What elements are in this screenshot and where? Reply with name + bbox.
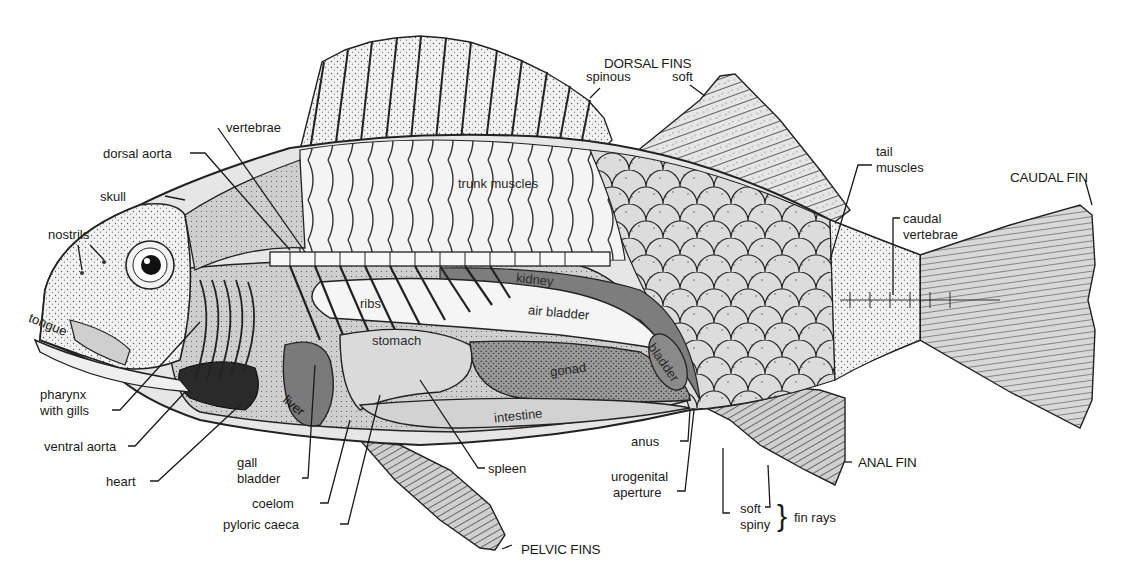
label-coelom: coelom — [252, 496, 294, 511]
fish-illustration — [0, 0, 1128, 580]
label-gall: gall — [237, 455, 257, 470]
label-ventral-aorta: ventral aorta — [44, 439, 116, 454]
eye — [126, 241, 174, 289]
pelvic-fin — [360, 440, 505, 550]
label-soft-dorsal: soft — [672, 69, 693, 84]
label-pyloric-caeca: pyloric caeca — [223, 517, 299, 532]
label-caudal: caudal — [903, 211, 941, 226]
label-gall-bladder: bladder — [237, 471, 280, 486]
label-spinous: spinous — [586, 69, 631, 84]
label-caudal-fin: CAUDAL FIN — [1010, 170, 1088, 185]
label-stomach: stomach — [372, 333, 421, 348]
label-caudal-vertebrae: vertebrae — [903, 227, 958, 242]
label-aperture: aperture — [613, 485, 661, 500]
label-skull: skull — [100, 189, 126, 204]
label-trunk-muscles: trunk muscles — [458, 176, 538, 191]
vertebral-column — [270, 252, 610, 266]
label-urogenital: urogenital — [611, 469, 668, 484]
label-heart: heart — [106, 474, 136, 489]
label-ribs: ribs — [360, 296, 381, 311]
label-spiny-rays: spiny — [740, 517, 770, 532]
label-vertebrae: vertebrae — [226, 120, 281, 135]
label-dorsal-aorta: dorsal aorta — [103, 146, 172, 161]
label-tail: tail — [876, 144, 893, 159]
label-pelvic-fins: PELVIC FINS — [521, 542, 600, 557]
nostril — [80, 271, 84, 275]
label-fin-rays: fin rays — [794, 510, 836, 525]
trunk-muscle-region — [300, 140, 625, 262]
fin-rays-brace: } — [777, 500, 787, 532]
label-anus: anus — [631, 434, 659, 449]
label-pharynx: pharynx — [40, 387, 86, 402]
label-soft-rays: soft — [740, 501, 761, 516]
nostril — [102, 260, 106, 264]
label-nostrils: nostrils — [48, 227, 89, 242]
label-tail-muscles: muscles — [876, 160, 924, 175]
label-with-gills: with gills — [40, 403, 89, 418]
label-anal-fin: ANAL FIN — [858, 455, 917, 470]
fish-anatomy-diagram: DORSAL FINS spinous soft vertebrae dorsa… — [0, 0, 1128, 580]
label-spleen: spleen — [488, 461, 526, 476]
